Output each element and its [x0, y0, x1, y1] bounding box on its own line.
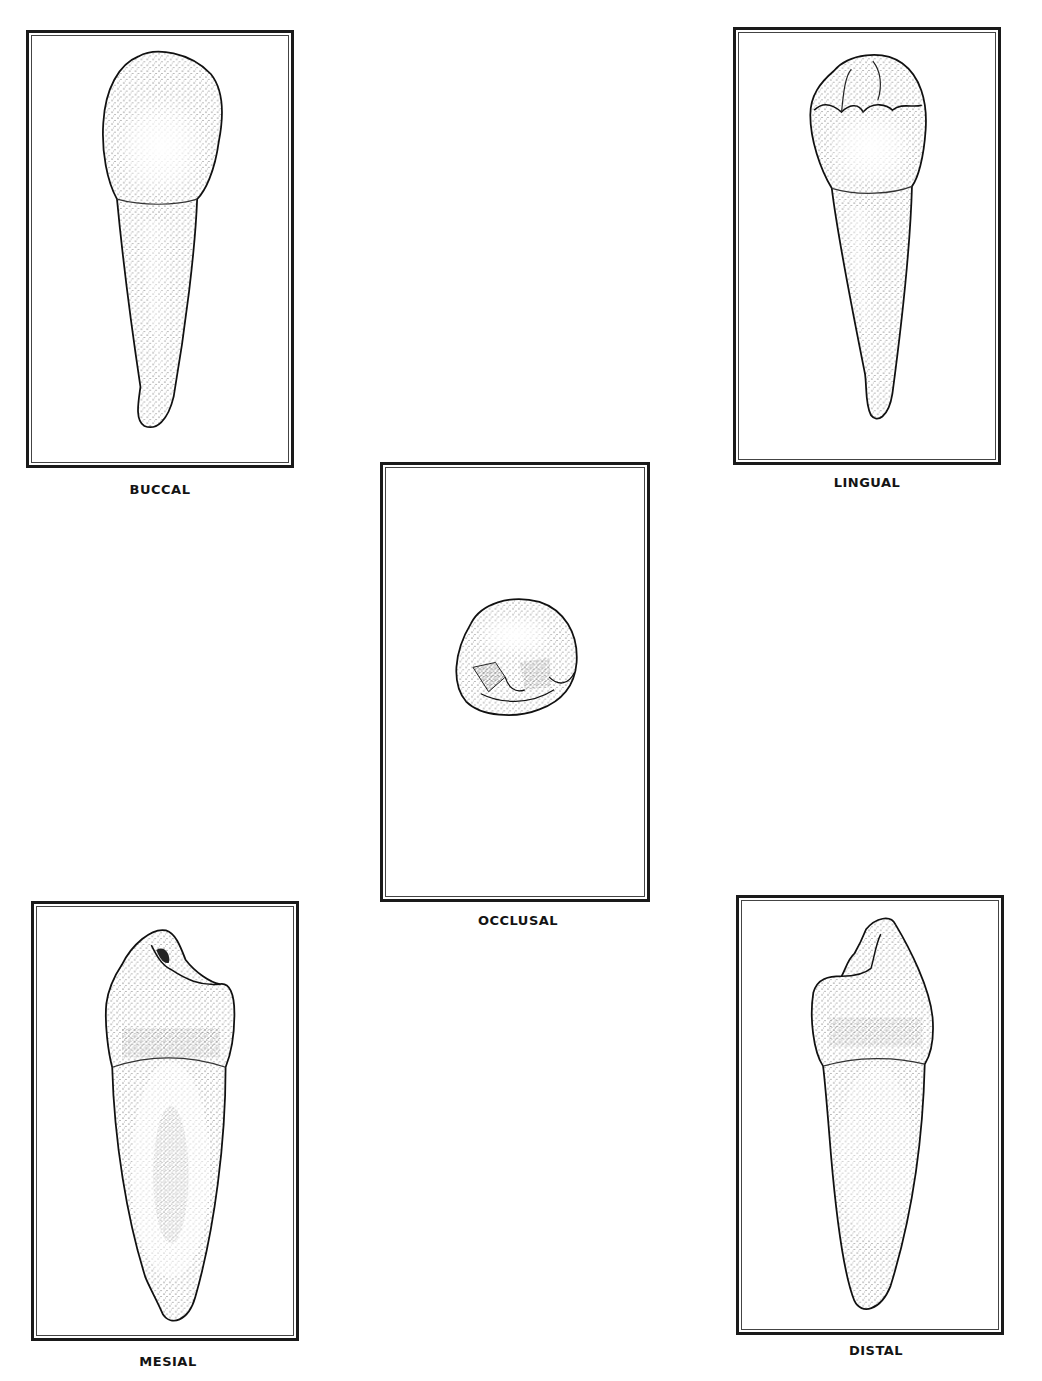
panel-distal — [736, 895, 1004, 1335]
label-buccal: BUCCAL — [60, 482, 260, 497]
panel-mesial — [31, 901, 299, 1341]
label-occlusal: OCCLUSAL — [418, 913, 618, 928]
panel-lingual — [733, 27, 1001, 465]
tooth-buccal-illustration — [29, 33, 291, 465]
panel-buccal — [26, 30, 294, 468]
tooth-distal-illustration — [739, 898, 1001, 1332]
label-distal: DISTAL — [776, 1343, 976, 1358]
tooth-mesial-illustration — [34, 904, 296, 1338]
tooth-occlusal-illustration — [383, 465, 647, 899]
label-mesial: MESIAL — [68, 1354, 268, 1369]
tooth-lingual-illustration — [736, 30, 998, 462]
label-lingual: LINGUAL — [767, 475, 967, 490]
panel-occlusal — [380, 462, 650, 902]
